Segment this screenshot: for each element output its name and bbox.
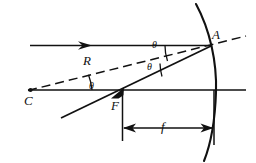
- optics-diagram: A C F R f θ θ θ: [0, 0, 256, 163]
- label-focal-length-f: f: [161, 120, 165, 133]
- label-point-C: C: [24, 94, 33, 107]
- label-point-A: A: [212, 28, 220, 41]
- label-angle-at-C: θ: [89, 81, 94, 91]
- center-of-curvature-point: [28, 88, 32, 92]
- label-radius-R: R: [83, 54, 91, 67]
- angle-arc-upper-at-A: [165, 46, 168, 62]
- diagram-canvas: [0, 0, 256, 163]
- label-point-F: F: [111, 99, 119, 112]
- label-angle-upper: θ: [152, 40, 157, 50]
- label-angle-middle: θ: [147, 62, 152, 72]
